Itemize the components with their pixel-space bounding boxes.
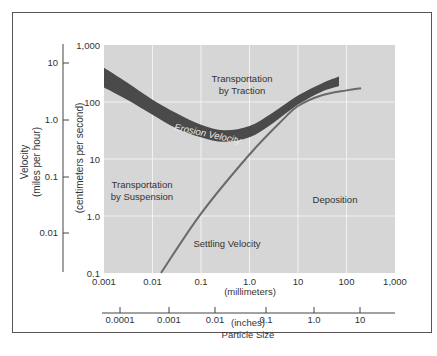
y-tick-label-cms: 1.0 <box>87 211 100 222</box>
x-tick-label-mm: 1,000 <box>383 276 407 287</box>
y-tick-label-cms: 1,000 <box>76 40 100 51</box>
x-tick-label-mm: 0.1 <box>194 276 207 287</box>
x-tick-label-inches: 0.001 <box>157 314 181 325</box>
y-tick-label-cms: 10 <box>89 154 100 165</box>
x-axis-unit-inches: (inches) <box>231 317 265 328</box>
label-settling-velocity: Settling Velocity <box>193 238 260 249</box>
y-tick-label-mph: 0.1 <box>45 171 58 182</box>
y-tick-label-mph: 10 <box>47 57 58 68</box>
label-suspension-1: Transportation <box>112 179 173 190</box>
y-tick-label-mph: 1.0 <box>45 114 58 125</box>
x-tick-label-mm: 10 <box>293 276 304 287</box>
x-axis-unit-mm: (millimeters) <box>224 286 276 297</box>
x-tick-label-mm: 0.001 <box>92 276 116 287</box>
x-tick-label-inches: 0.0001 <box>105 314 134 325</box>
sediment-velocity-chart: 0.11.0101001,0000.0010.010.11.0101001,00… <box>0 0 437 356</box>
y-axis-title-velocity: Velocity <box>19 145 30 179</box>
x-axis-title-particle-size: Particle Size <box>222 329 275 340</box>
x-tick-label-inches: 0.01 <box>206 314 225 325</box>
label-traction-1: Transportation <box>212 73 273 84</box>
x-tick-label-inches: 10 <box>355 314 366 325</box>
y-axis-unit-mph: (miles per hour) <box>31 127 42 197</box>
label-suspension-2: by Suspension <box>111 191 173 202</box>
x-tick-label-mm: 0.01 <box>143 276 162 287</box>
x-tick-label-mm: 100 <box>339 276 355 287</box>
x-tick-label-inches: 1.0 <box>307 314 320 325</box>
y-tick-label-cms: 100 <box>84 97 100 108</box>
y-axis-unit-cms: (centimeters per second) <box>74 103 85 214</box>
label-traction-2: by Traction <box>219 85 265 96</box>
label-deposition: Deposition <box>313 194 358 205</box>
y-tick-label-mph: 0.01 <box>40 227 59 238</box>
